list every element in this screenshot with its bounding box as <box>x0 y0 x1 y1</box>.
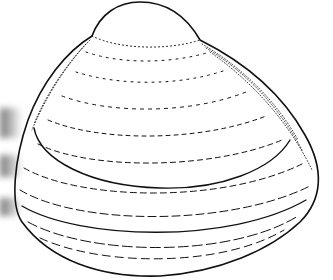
clam-shell-drawing <box>0 0 333 280</box>
growth-rings <box>20 52 310 259</box>
umbo-edge <box>92 36 200 47</box>
edge-hatching <box>32 40 312 170</box>
